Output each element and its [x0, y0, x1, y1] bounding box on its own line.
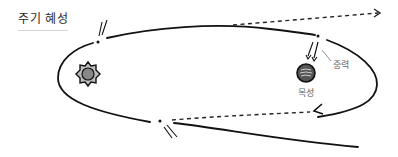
gravity-leader-line [322, 50, 331, 61]
sun-icon [76, 62, 100, 86]
dashed-trajectory-top [233, 9, 380, 25]
comet-icon-jupiter [306, 35, 320, 62]
orbit-path [58, 26, 377, 147]
arrow-left-icon [314, 104, 323, 114]
gravity-label: 중력 [333, 59, 349, 70]
comet-orbit-diagram: 중력 목성 [0, 0, 398, 157]
dashed-trajectory-bottom [172, 104, 323, 120]
jupiter-icon [297, 64, 315, 82]
comet-icon-top [97, 20, 108, 44]
jupiter-label: 목성 [298, 88, 314, 98]
